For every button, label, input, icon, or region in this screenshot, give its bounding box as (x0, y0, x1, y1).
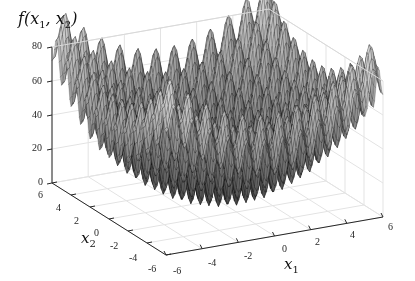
z-tick-60: 60 (32, 76, 42, 86)
z-tick-40: 40 (32, 110, 42, 120)
x1-tick-minus2: -2 (244, 251, 252, 261)
x2-axis-label: x2 (81, 229, 96, 249)
x2-tick-6: 6 (38, 190, 43, 200)
z-tick-80: 80 (32, 41, 42, 51)
x2-tick-4: 4 (56, 203, 61, 213)
x2-tick-minus6: -6 (148, 264, 156, 274)
z-tick-0: 0 (38, 177, 43, 187)
x1-tick-minus6: -6 (173, 266, 181, 276)
x1-tick-0: 0 (282, 244, 287, 254)
x2-tick-minus4: -4 (129, 253, 137, 263)
x2-tick-2: 2 (74, 216, 79, 226)
z-tick-20: 20 (32, 143, 42, 153)
z-axis-title: f(x1, x2) (18, 9, 77, 30)
x1-tick-2: 2 (315, 237, 320, 247)
x1-tick-6: 6 (388, 222, 393, 232)
x1-axis-label: x1 (284, 255, 299, 275)
x1-tick-minus4: -4 (208, 258, 216, 268)
x2-tick-minus2: -2 (110, 241, 118, 251)
x1-tick-4: 4 (350, 230, 355, 240)
